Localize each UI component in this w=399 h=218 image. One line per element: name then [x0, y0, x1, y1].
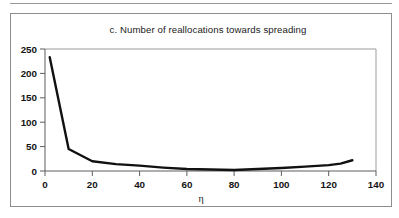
y-tick-label: 150 [21, 92, 38, 103]
y-axis [40, 49, 45, 171]
x-tick-label: 100 [273, 179, 290, 190]
x-axis-label: η [198, 193, 203, 204]
y-tick-label: 200 [21, 68, 38, 79]
y-tick-label: 0 [32, 166, 38, 177]
x-tick-label: 140 [368, 179, 385, 190]
x-tick-label: 0 [42, 179, 48, 190]
x-tick-label: 20 [87, 179, 98, 190]
x-axis [45, 171, 376, 176]
x-tick-label: 80 [229, 179, 240, 190]
y-tick-labels: 250 200 150 100 50 0 [21, 44, 38, 177]
series-line-reallocations [50, 57, 353, 170]
y-tick-label: 100 [21, 117, 38, 128]
x-tick-labels: 0 20 40 60 80 100 120 140 [42, 179, 384, 190]
x-tick-label: 60 [181, 179, 192, 190]
x-tick-label: 120 [321, 179, 338, 190]
line-chart-plot: 250 200 150 100 50 0 0 20 40 60 80 100 [11, 14, 391, 206]
y-tick-label: 250 [21, 44, 38, 55]
x-tick-label: 40 [134, 179, 145, 190]
plot-frame [45, 49, 376, 171]
figure-container: c. Number of reallocations towards sprea… [10, 13, 392, 207]
page-top-rule [10, 3, 392, 4]
y-tick-label: 50 [26, 141, 37, 152]
